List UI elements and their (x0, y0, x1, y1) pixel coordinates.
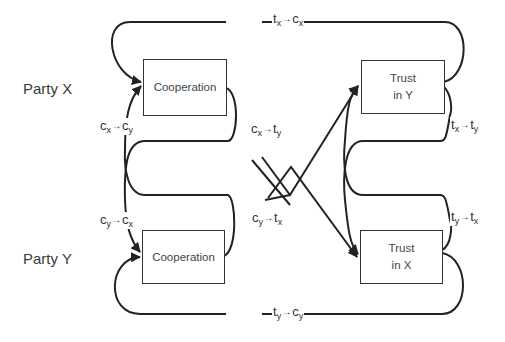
label-cy-tx: cy→tx (251, 210, 283, 227)
cooperation-x-box: Cooperation (143, 59, 227, 116)
label-tx-ty: tx→ty (450, 117, 479, 134)
label-ty-tx: ty→tx (450, 209, 479, 226)
cooperation-y-box: Cooperation (142, 230, 225, 284)
box-label: Cooperation (154, 79, 217, 96)
box-label: Cooperation (152, 249, 215, 266)
label-cy-cx: cy→cx (99, 212, 134, 229)
label-cx-ty: cx→ty (250, 121, 282, 138)
label-cx-cy: cx→cy (99, 118, 134, 135)
party-y-label: Party Y (23, 250, 72, 267)
label-ty-cy: ty→cy (272, 304, 304, 321)
party-x-label: Party X (23, 80, 72, 97)
diagram-connectors (0, 0, 505, 342)
label-tx-cx: tx→cx (272, 11, 304, 28)
box-label-line1: Trust (389, 240, 415, 257)
trust-in-x-box: Trust in X (360, 230, 443, 284)
trust-in-y-box: Trust in Y (361, 60, 445, 114)
box-label-line1: Trust (390, 70, 416, 87)
box-label-line2: in X (392, 257, 412, 274)
box-label-line2: in Y (393, 87, 413, 104)
